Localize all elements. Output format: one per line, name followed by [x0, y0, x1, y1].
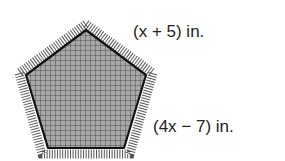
right-side-length-label: (4x − 7) in.	[153, 117, 234, 137]
rug-pentagon	[26, 30, 146, 148]
top-side-length-label: (x + 5) in.	[133, 22, 204, 42]
